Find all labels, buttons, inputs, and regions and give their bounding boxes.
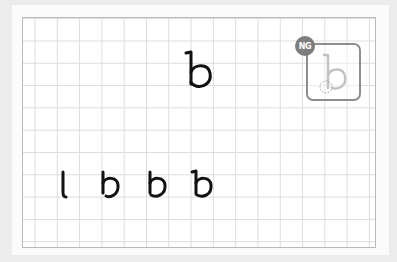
result-frame (306, 43, 361, 101)
ng-badge: NG (295, 36, 315, 56)
